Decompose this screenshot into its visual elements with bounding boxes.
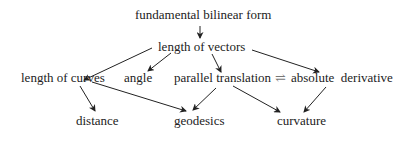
node-curvature: curvature	[277, 114, 326, 128]
arrow-parallel-to-geodesics	[193, 88, 216, 110]
arrow-parallel-to-curvature	[233, 86, 280, 112]
node-angle: angle	[124, 71, 152, 85]
equivalence-symbol: ⇌	[275, 71, 286, 85]
arrow-curves-to-geodesics	[92, 82, 186, 111]
arrow-vectors-to-angle	[148, 53, 171, 71]
node-length-of-vectors: length of vectors	[158, 40, 245, 54]
node-fundamental-bilinear-form: fundamental bilinear form	[135, 8, 271, 22]
node-parallel-translation: parallel translation	[174, 71, 271, 85]
node-distance: distance	[76, 114, 119, 128]
arrow-absolute-to-curvature	[304, 87, 326, 112]
node-absolute-derivative: absolute derivative	[291, 71, 393, 85]
node-geodesics: geodesics	[174, 114, 225, 128]
concept-diagram: fundamental bilinear form length of vect…	[0, 0, 401, 144]
arrow-vectors-to-absolute	[252, 50, 319, 72]
node-length-of-curves: length of curves	[21, 71, 105, 85]
arrow-curves-to-distance	[80, 86, 95, 111]
